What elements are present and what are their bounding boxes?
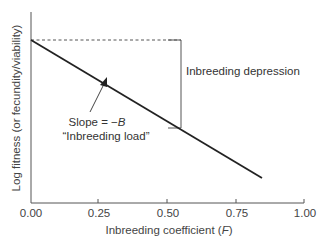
slope-arrow (90, 84, 104, 112)
x-tick-label: 0.75 (226, 207, 248, 219)
x-tick-label: 0.00 (20, 207, 42, 219)
y-axis-label: Log fitness (or fecundity/viability) (10, 24, 22, 191)
x-axis-label: Inbreeding coefficient (F) (105, 224, 232, 236)
slope-label: Slope = −B (69, 116, 126, 128)
x-tick-label: 0.25 (88, 207, 110, 219)
chart: 0.00 0.25 0.50 0.75 1.00 Inbreeding coef… (0, 0, 328, 245)
inbreeding-load-label: “Inbreeding load” (63, 130, 150, 142)
x-tick-label: 1.00 (294, 207, 316, 219)
x-tick-label: 0.50 (157, 207, 179, 219)
x-ticks (98, 199, 304, 203)
fitness-line (31, 40, 262, 178)
inbreeding-depression-label: Inbreeding depression (186, 65, 300, 77)
inbreeding-depression-bracket (168, 40, 181, 128)
